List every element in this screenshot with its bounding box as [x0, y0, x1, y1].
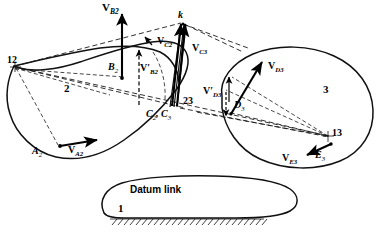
vector-vc3-label: VC3	[192, 43, 207, 56]
vector-vc3-arrow	[177, 24, 185, 106]
datum-link-label: Datum link	[130, 185, 181, 195]
datum-link-outline	[102, 176, 297, 218]
point-d3-label: D3	[234, 100, 245, 113]
instant-center-12-label: 12	[7, 55, 17, 65]
point-k-label: k	[178, 10, 183, 20]
vector-vd3-prime-label: V′D3	[203, 86, 221, 99]
vector-va2-label: VA2	[68, 145, 83, 158]
instant-center-23-label: 23	[183, 96, 193, 106]
diagram-canvas	[0, 0, 391, 240]
link-3-number: 3	[323, 84, 329, 95]
ground-hatching	[110, 219, 267, 225]
link-2-outline	[7, 41, 188, 158]
point-a2-dot	[58, 144, 62, 148]
datum-link-number: 1	[118, 203, 124, 214]
point-e3-dot	[329, 142, 332, 145]
point-b2-dot	[120, 76, 124, 80]
point-d3-dot	[229, 112, 232, 115]
kinematic-diagram: VB2 VC2 VC3 k B2 V′B2 12 23 13 C2, C3 2 …	[0, 0, 391, 240]
vector-ve3-label: VE3	[282, 153, 297, 166]
vector-vd3-label: VD3	[268, 61, 284, 74]
point-a2-label: A2	[32, 146, 42, 159]
construction-line-12-a2	[16, 68, 58, 145]
construction-line-12-23	[15, 67, 185, 108]
construction-line-13-d3c	[219, 110, 328, 136]
construction-curve-b2-c2	[153, 52, 165, 100]
point-e3-label: E3	[315, 150, 325, 163]
point-b2-label: B2	[108, 62, 118, 75]
vector-vc2-arrow	[145, 37, 152, 45]
vector-vc2-label: VC2	[157, 36, 172, 49]
vector-vb2-prime-label: V′B2	[140, 63, 158, 76]
instant-center-13-label: 13	[332, 128, 342, 138]
link-2-number: 2	[64, 83, 70, 94]
point-c2-c3-label: C2, C3	[146, 109, 171, 122]
vector-vb2-label: VB2	[102, 2, 119, 16]
construction-line-12-lower	[15, 68, 110, 95]
point-k-dot	[181, 22, 184, 25]
